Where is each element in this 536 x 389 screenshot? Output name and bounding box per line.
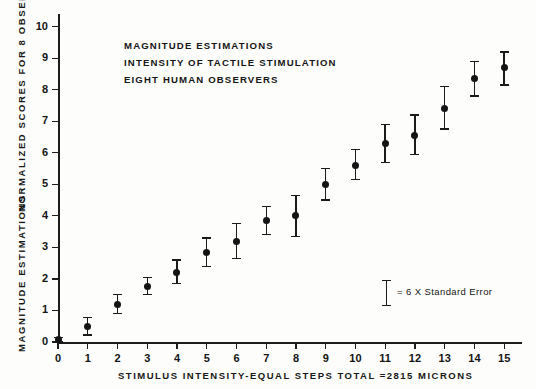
x-tick — [385, 343, 386, 349]
y-tick — [52, 26, 58, 27]
error-bar-cap-bottom — [202, 266, 211, 267]
error-bar-cap-bottom — [172, 283, 181, 284]
data-point — [292, 212, 299, 219]
x-tick-label: 3 — [135, 352, 159, 364]
x-tick — [57, 343, 58, 349]
y-tick — [52, 247, 58, 248]
data-point — [55, 336, 62, 343]
error-bar-cap-top — [410, 114, 419, 115]
error-bar-cap-bottom — [470, 95, 479, 96]
x-tick-label: 10 — [343, 352, 367, 364]
error-bar-cap-bottom — [381, 162, 390, 163]
x-tick — [474, 343, 475, 349]
error-bar-cap-top — [291, 195, 300, 196]
error-bar-cap-top — [440, 86, 449, 87]
error-bar-cap-bottom — [291, 236, 300, 237]
error-bar-cap-top — [262, 206, 271, 207]
plot-area: 012345678910 0123456789101112131415 MAGN… — [58, 14, 522, 344]
x-tick — [147, 343, 148, 349]
error-bar-cap-top — [500, 51, 509, 52]
data-point — [84, 323, 91, 330]
data-point — [322, 181, 329, 188]
caption-line-1: MAGNITUDE ESTIMATIONS — [124, 37, 337, 54]
data-point — [441, 105, 448, 112]
error-bar-cap-bottom — [500, 84, 509, 85]
data-point — [501, 64, 508, 71]
error-bar-cap-bottom — [321, 199, 330, 200]
y-tick-label: 1 — [22, 303, 48, 315]
data-point — [471, 75, 478, 82]
legend-label: = 6 X Standard Error — [397, 286, 492, 297]
y-tick-label: 4 — [22, 209, 48, 221]
x-tick — [414, 343, 415, 349]
x-tick — [325, 343, 326, 349]
y-tick — [52, 89, 58, 90]
y-tick — [52, 184, 58, 185]
data-point — [352, 162, 359, 169]
x-tick-label: 9 — [314, 352, 338, 364]
data-point — [114, 301, 121, 308]
x-tick — [236, 343, 237, 349]
legend: = 6 X Standard Error — [386, 280, 536, 306]
x-tick — [444, 343, 445, 349]
y-tick-label: 2 — [22, 272, 48, 284]
y-tick — [52, 58, 58, 59]
error-bar-cap-bottom — [351, 179, 360, 180]
x-tick-label: 0 — [46, 352, 70, 364]
data-point — [411, 132, 418, 139]
y-axis-line — [58, 14, 60, 344]
y-tick-label: 6 — [22, 146, 48, 158]
error-bar-cap-top — [470, 61, 479, 62]
x-tick-label: 15 — [492, 352, 516, 364]
data-point — [263, 217, 270, 224]
y-tick — [52, 152, 58, 153]
error-bar-cap-bottom — [232, 258, 241, 259]
x-tick — [206, 343, 207, 349]
x-tick — [295, 343, 296, 349]
legend-errorbar-cap-top-icon — [382, 280, 391, 281]
y-tick-label: 7 — [22, 114, 48, 126]
x-tick-label: 7 — [254, 352, 278, 364]
legend-errorbar-cap-bottom-icon — [382, 305, 391, 306]
error-bar-cap-top — [202, 237, 211, 238]
error-bar-cap-top — [172, 259, 181, 260]
y-tick-label: 8 — [22, 83, 48, 95]
data-point — [203, 249, 210, 256]
error-bar-cap-bottom — [440, 128, 449, 129]
error-bar-cap-bottom — [410, 154, 419, 155]
x-tick-label: 5 — [195, 352, 219, 364]
x-tick — [176, 343, 177, 349]
y-tick-label: 5 — [22, 177, 48, 189]
y-tick — [52, 121, 58, 122]
x-tick-label: 13 — [433, 352, 457, 364]
data-point — [173, 269, 180, 276]
x-tick — [117, 343, 118, 349]
caption-line-2: INTENSITY OF TACTILE STIMULATION — [124, 54, 337, 71]
chart-caption: MAGNITUDE ESTIMATIONS INTENSITY OF TACTI… — [124, 37, 337, 88]
x-tick — [355, 343, 356, 349]
y-tick-label: 0 — [22, 335, 48, 347]
error-bar-cap-top — [321, 168, 330, 169]
error-bar-cap-bottom — [83, 334, 92, 335]
x-tick — [504, 343, 505, 349]
data-point — [233, 238, 240, 245]
error-bar-cap-top — [351, 149, 360, 150]
y-tick-label: 3 — [22, 240, 48, 252]
error-bar-cap-top — [232, 223, 241, 224]
error-bar-cap-top — [381, 124, 390, 125]
error-bar-cap-top — [83, 317, 92, 318]
y-tick-label: 10 — [22, 20, 48, 32]
y-tick — [52, 310, 58, 311]
x-axis-line — [58, 342, 522, 344]
x-tick-label: 6 — [224, 352, 248, 364]
y-tick — [52, 278, 58, 279]
error-bar-cap-bottom — [143, 294, 152, 295]
x-tick-label: 11 — [373, 352, 397, 364]
x-axis-title: STIMULUS INTENSITY-EQUAL STEPS TOTAL =28… — [118, 370, 473, 381]
x-tick — [87, 343, 88, 349]
caption-line-3: EIGHT HUMAN OBSERVERS — [124, 71, 337, 88]
data-point — [144, 283, 151, 290]
error-bar-cap-bottom — [113, 313, 122, 314]
error-bar-cap-bottom — [262, 234, 271, 235]
y-tick-label: 9 — [22, 51, 48, 63]
